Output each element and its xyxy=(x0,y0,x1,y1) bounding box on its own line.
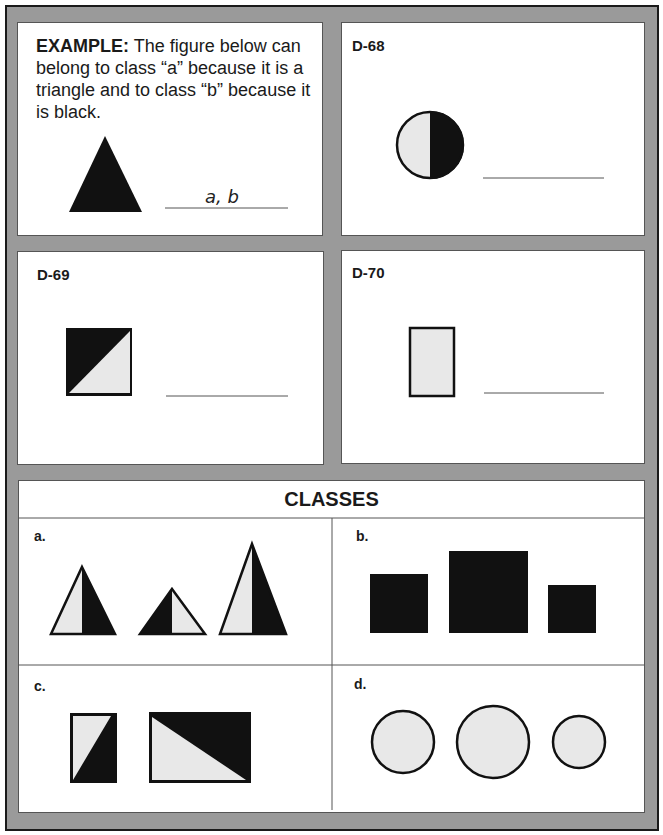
problem-panel-d69 xyxy=(17,251,324,465)
problem-panel-d68 xyxy=(341,22,645,236)
classes-panel xyxy=(18,480,645,813)
example-lead: EXAMPLE: xyxy=(36,36,129,56)
class-label-c: c. xyxy=(34,678,46,694)
example-answer: a, b xyxy=(205,186,239,207)
class-label-b: b. xyxy=(356,528,368,544)
class-label-d: d. xyxy=(354,676,366,692)
classes-title: CLASSES xyxy=(18,488,645,511)
problem-label-d70: D-70 xyxy=(352,264,385,281)
problem-label-d69: D-69 xyxy=(37,266,70,283)
problem-label-d68: D-68 xyxy=(352,37,385,54)
example-instructions: EXAMPLE: The figure below can belong to … xyxy=(36,35,316,123)
problem-panel-d70 xyxy=(341,250,645,464)
class-label-a: a. xyxy=(34,528,46,544)
